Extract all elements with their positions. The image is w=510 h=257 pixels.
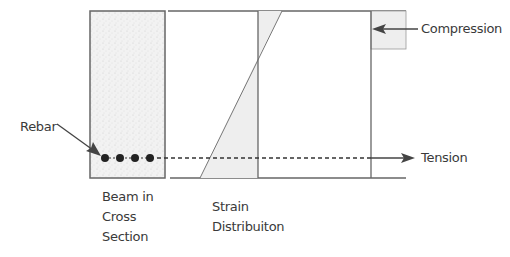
- strain-caption-line-2: Distribuiton: [212, 217, 284, 237]
- tension-label: Tension: [421, 148, 467, 168]
- strain-caption-line-1: Strain: [212, 197, 249, 217]
- rebar-dot: [131, 154, 139, 162]
- rebar-label: Rebar: [20, 117, 57, 137]
- beam-section-caption-line-3: Section: [102, 227, 148, 247]
- rebar-dot: [116, 154, 124, 162]
- beam-section-caption-line-2: Cross: [102, 207, 136, 227]
- compression-label: Compression: [421, 19, 502, 39]
- rebar-dot: [146, 154, 154, 162]
- rebar-dot: [101, 154, 109, 162]
- rebar-arrow-shaft: [57, 124, 93, 150]
- beam-section-caption-line-1: Beam in: [102, 187, 153, 207]
- beam-cross-section: [90, 11, 165, 178]
